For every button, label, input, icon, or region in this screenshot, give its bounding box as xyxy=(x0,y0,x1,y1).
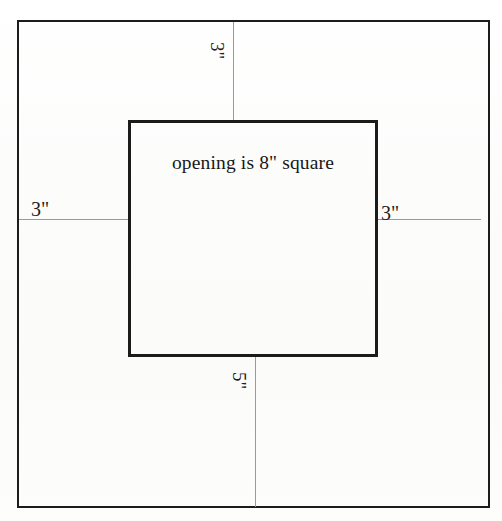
dimension-label-bottom: 5" xyxy=(230,372,249,389)
leader-line-top xyxy=(233,22,234,120)
dimension-label-top: 3" xyxy=(208,42,227,59)
technical-diagram: opening is 8" square 3" 3" 3" 5" xyxy=(0,0,502,521)
leader-line-bottom xyxy=(255,357,256,507)
opening-caption: opening is 8" square xyxy=(128,152,378,174)
dimension-label-right: 3" xyxy=(381,203,399,223)
dimension-label-left: 3" xyxy=(31,199,49,219)
